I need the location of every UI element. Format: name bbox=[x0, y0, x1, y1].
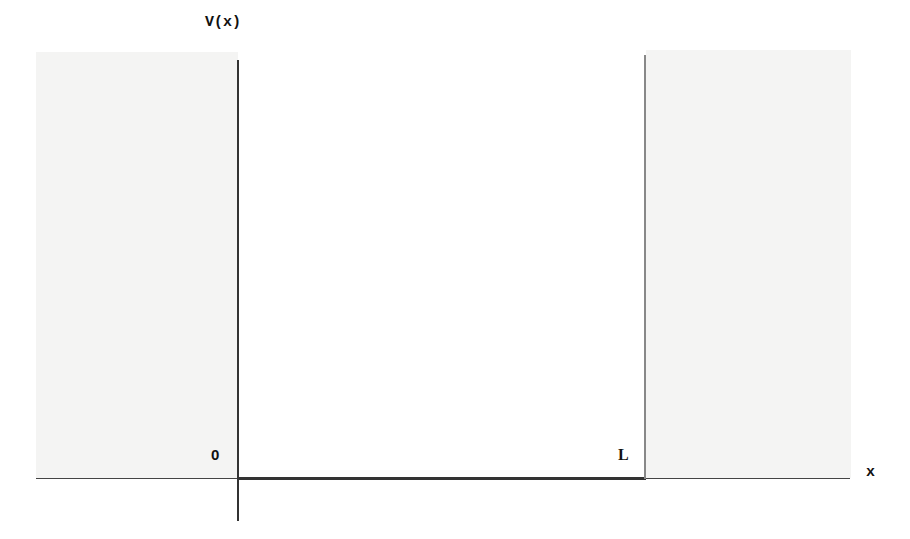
right-barrier-region bbox=[646, 50, 851, 478]
well-bottom-line bbox=[238, 477, 646, 480]
right-wall-line bbox=[644, 55, 646, 479]
well-width-label: L bbox=[618, 446, 629, 464]
well-interior bbox=[239, 52, 645, 478]
x-axis-label: x bbox=[866, 464, 875, 481]
origin-label: 0 bbox=[211, 446, 219, 463]
y-axis-line bbox=[237, 60, 239, 521]
left-barrier-region bbox=[36, 52, 238, 478]
y-axis-label: V(x) bbox=[205, 14, 241, 31]
